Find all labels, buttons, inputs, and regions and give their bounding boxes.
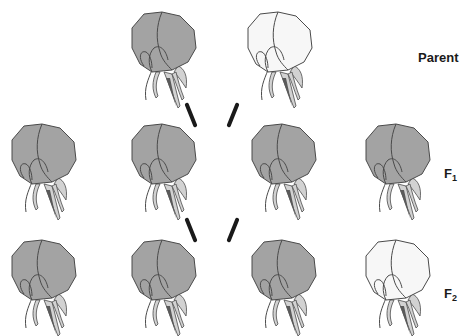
f2-flower-4-white (356, 236, 440, 336)
flower-colored-icon (2, 236, 86, 336)
f2-flower-2 (122, 236, 206, 336)
f2-flower-3 (242, 236, 326, 336)
row-label-f1: F1 (444, 166, 457, 183)
f1-flower-1 (2, 120, 86, 220)
flower-colored-icon (122, 8, 206, 108)
row-label-text: F (444, 166, 452, 181)
flower-colored-icon (122, 120, 206, 220)
row-label-subscript: 2 (452, 293, 457, 303)
f1-flower-3 (242, 120, 326, 220)
row-label-text: Parent (418, 50, 458, 65)
cross-line-right (226, 217, 239, 243)
row-label-subscript: 1 (452, 173, 457, 183)
flower-white-icon (356, 236, 440, 336)
cross-line-right (226, 102, 239, 128)
flower-colored-icon (242, 236, 326, 336)
parent-flower-white (238, 8, 322, 108)
row-label-parent: Parent (418, 50, 458, 65)
flower-colored-icon (242, 120, 326, 220)
f2-flower-1 (2, 236, 86, 336)
f1-flower-2 (122, 120, 206, 220)
flower-white-icon (238, 8, 322, 108)
flower-colored-icon (2, 120, 86, 220)
row-label-text: F (444, 286, 452, 301)
row-label-f2: F2 (444, 286, 457, 303)
flower-colored-icon (356, 120, 440, 220)
f1-flower-4 (356, 120, 440, 220)
flower-colored-icon (122, 236, 206, 336)
parent-flower-colored (122, 8, 206, 108)
